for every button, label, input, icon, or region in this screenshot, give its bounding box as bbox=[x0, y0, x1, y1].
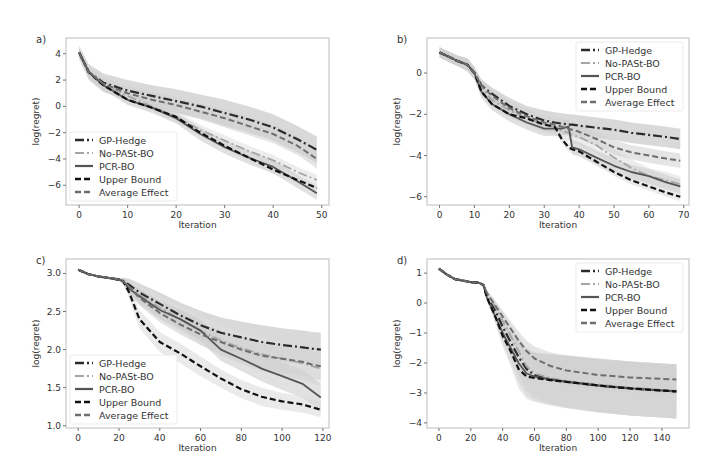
y-tick-label: 0 bbox=[416, 68, 422, 78]
x-tick-label: 20 bbox=[113, 433, 125, 443]
x-tick-label: 20 bbox=[504, 210, 516, 220]
y-tick-label: 2.0 bbox=[47, 345, 62, 355]
y-tick-label: 1.0 bbox=[47, 421, 62, 431]
legend-label: PCR-BO bbox=[99, 161, 135, 172]
x-tick-label: 40 bbox=[154, 433, 166, 443]
y-tick-label: −2 bbox=[409, 358, 422, 368]
figure: 01020304050420−2−4−6Iterationlog(regret)… bbox=[0, 0, 722, 473]
legend-label: Upper Bound bbox=[99, 174, 161, 185]
panel-label: d) bbox=[397, 255, 407, 266]
x-tick-label: 10 bbox=[122, 210, 134, 220]
y-tick-label: −1 bbox=[409, 328, 422, 338]
panel-label: c) bbox=[36, 255, 45, 266]
legend-label: Upper Bound bbox=[605, 305, 667, 316]
x-tick-label: 70 bbox=[678, 210, 690, 220]
y-axis-label: log(regret) bbox=[392, 97, 402, 145]
x-tick-label: 140 bbox=[653, 433, 670, 443]
y-axis-label: log(regret) bbox=[392, 319, 402, 367]
x-axis-label: Iteration bbox=[539, 220, 577, 230]
legend: GP-HedgeNo-PASt-BOPCR-BOUpper BoundAvera… bbox=[576, 42, 683, 111]
x-tick-label: 120 bbox=[621, 433, 638, 443]
y-tick-label: −4 bbox=[409, 418, 423, 428]
x-axis-label: Iteration bbox=[539, 443, 577, 453]
legend-label: GP-Hedge bbox=[605, 45, 652, 56]
panel-b: 0102030405060700−2−4−6Iterationlog(regre… bbox=[392, 34, 690, 230]
y-tick-label: −2 bbox=[409, 109, 422, 119]
x-tick-label: 50 bbox=[316, 210, 328, 220]
panel-d: 02040608010012014010−1−2−3−4Iterationlog… bbox=[392, 255, 689, 453]
x-tick-label: 0 bbox=[75, 433, 81, 443]
x-tick-label: 60 bbox=[195, 433, 207, 443]
x-tick-label: 0 bbox=[437, 210, 443, 220]
legend-label: No-PASt-BO bbox=[605, 279, 660, 290]
legend-label: GP-Hedge bbox=[99, 135, 146, 146]
x-tick-label: 20 bbox=[170, 210, 182, 220]
y-tick-label: 0 bbox=[55, 101, 61, 111]
x-tick-label: 60 bbox=[643, 210, 655, 220]
y-tick-label: −6 bbox=[48, 180, 62, 190]
y-tick-label: −2 bbox=[48, 128, 61, 138]
x-tick-label: 80 bbox=[236, 433, 248, 443]
legend-label: Upper Bound bbox=[99, 397, 161, 408]
x-axis-label: Iteration bbox=[178, 220, 216, 230]
legend-label: PCR-BO bbox=[99, 384, 135, 395]
y-tick-label: −4 bbox=[409, 151, 423, 161]
panel-label: b) bbox=[397, 34, 407, 45]
x-tick-label: 10 bbox=[469, 210, 481, 220]
x-axis-label: Iteration bbox=[178, 443, 216, 453]
legend-label: Average Effect bbox=[605, 318, 675, 329]
y-tick-label: 2.5 bbox=[47, 307, 61, 317]
legend-label: Upper Bound bbox=[605, 84, 667, 95]
y-tick-label: 2 bbox=[55, 75, 61, 85]
x-tick-label: 0 bbox=[436, 433, 442, 443]
legend-label: PCR-BO bbox=[605, 71, 641, 82]
panel-c: 0204060801001203.02.52.01.51.0Iterationl… bbox=[31, 255, 332, 453]
legend-label: No-PASt-BO bbox=[605, 58, 660, 69]
x-tick-label: 40 bbox=[497, 433, 509, 443]
y-tick-label: 0 bbox=[416, 298, 422, 308]
x-tick-label: 0 bbox=[76, 210, 82, 220]
x-tick-label: 50 bbox=[608, 210, 620, 220]
x-tick-label: 120 bbox=[314, 433, 331, 443]
legend-label: PCR-BO bbox=[605, 292, 641, 303]
legend-label: Average Effect bbox=[605, 97, 675, 108]
y-tick-label: 1.5 bbox=[47, 383, 61, 393]
y-axis-label: log(regret) bbox=[31, 319, 41, 367]
y-tick-label: −6 bbox=[409, 192, 423, 202]
legend-label: Average Effect bbox=[99, 410, 169, 421]
legend-label: GP-Hedge bbox=[99, 358, 146, 369]
x-tick-label: 30 bbox=[538, 210, 550, 220]
legend-label: Average Effect bbox=[99, 187, 169, 198]
x-tick-label: 20 bbox=[465, 433, 477, 443]
x-tick-label: 100 bbox=[590, 433, 607, 443]
y-axis-label: log(regret) bbox=[31, 97, 41, 145]
legend: GP-HedgeNo-PASt-BOPCR-BOUpper BoundAvera… bbox=[70, 355, 177, 424]
x-tick-label: 40 bbox=[573, 210, 585, 220]
x-tick-label: 80 bbox=[561, 433, 573, 443]
x-tick-label: 60 bbox=[529, 433, 541, 443]
y-tick-label: −3 bbox=[409, 388, 422, 398]
legend-label: GP-Hedge bbox=[605, 266, 652, 277]
figure-canvas: 01020304050420−2−4−6Iterationlog(regret)… bbox=[0, 0, 722, 473]
legend-label: No-PASt-BO bbox=[99, 371, 154, 382]
y-tick-label: −4 bbox=[48, 154, 62, 164]
x-tick-label: 40 bbox=[267, 210, 279, 220]
y-tick-label: 3.0 bbox=[47, 268, 62, 278]
y-tick-label: 1 bbox=[416, 268, 422, 278]
x-tick-label: 30 bbox=[219, 210, 231, 220]
legend: GP-HedgeNo-PASt-BOPCR-BOUpper BoundAvera… bbox=[576, 263, 683, 332]
panel-a: 01020304050420−2−4−6Iterationlog(regret)… bbox=[31, 34, 329, 230]
y-tick-label: 4 bbox=[55, 49, 61, 59]
panel-label: a) bbox=[36, 34, 46, 45]
legend-label: No-PASt-BO bbox=[99, 148, 154, 159]
legend: GP-HedgeNo-PASt-BOPCR-BOUpper BoundAvera… bbox=[70, 132, 177, 201]
x-tick-label: 100 bbox=[274, 433, 291, 443]
